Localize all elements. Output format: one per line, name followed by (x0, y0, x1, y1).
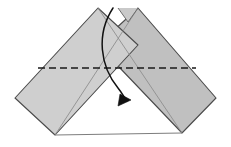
origami-diagram (0, 0, 231, 147)
origami-illustration (0, 0, 231, 147)
canvas-background (0, 0, 231, 147)
